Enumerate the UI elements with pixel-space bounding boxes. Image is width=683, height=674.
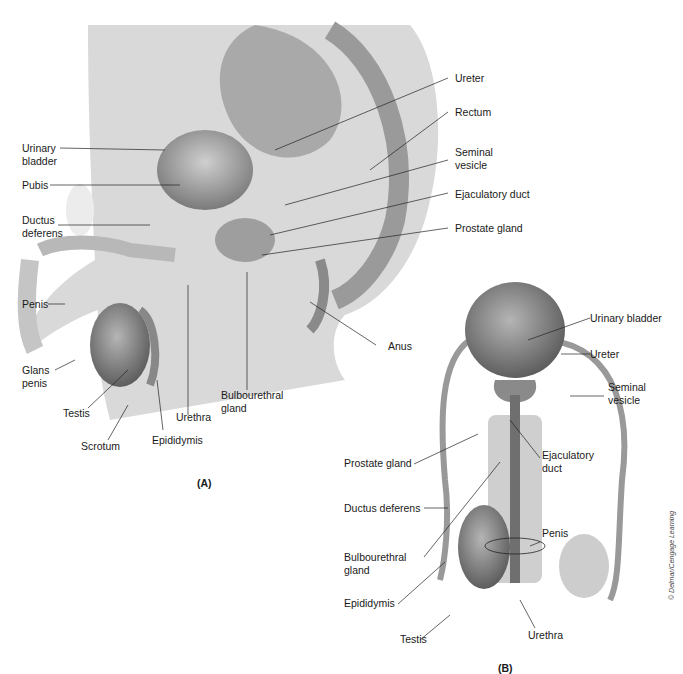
label-a-seminal-vesicle: Seminal vesicle	[455, 146, 493, 171]
label-a-prostate-gland: Prostate gland	[455, 222, 523, 235]
label-a-ejaculatory-duct: Ejaculatory duct	[455, 188, 530, 201]
label-a-ureter: Ureter	[455, 72, 484, 85]
label-a-testis: Testis	[63, 407, 90, 420]
credit-line: © Delmar/Cengage Learning	[668, 511, 675, 600]
label-a-epididymis: Epididymis	[152, 434, 203, 447]
panel-a-id: (A)	[197, 477, 212, 489]
label-a-urinary-bladder: Urinary bladder	[22, 142, 57, 167]
label-b-urinary-bladder: Urinary bladder	[590, 312, 662, 325]
label-b-seminal-vesicle: Seminal vesicle	[608, 381, 646, 406]
label-b-urethra: Urethra	[528, 629, 563, 642]
label-a-rectum: Rectum	[455, 106, 491, 119]
panel-b-illustration	[440, 282, 624, 600]
label-a-scrotum: Scrotum	[81, 440, 120, 453]
label-b-ureter: Ureter	[590, 348, 619, 361]
panel-a-illustration	[27, 25, 438, 420]
label-a-pubis: Pubis	[22, 179, 48, 192]
label-b-ductus-deferens: Ductus deferens	[344, 502, 420, 515]
label-a-ductus-deferens: Ductus deferens	[22, 214, 63, 239]
label-b-penis: Penis	[542, 527, 568, 540]
label-b-testis: Testis	[400, 633, 427, 646]
label-b-bulbourethral-gland: Bulbourethral gland	[344, 551, 406, 576]
label-b-ejaculatory-duct: Ejaculatory duct	[542, 449, 594, 474]
label-a-anus: Anus	[388, 340, 412, 353]
label-b-prostate-gland: Prostate gland	[344, 457, 412, 470]
label-a-glans-penis: Glans penis	[22, 364, 49, 389]
label-a-bulbourethral-gland: Bulbourethral gland	[221, 389, 283, 414]
label-a-penis: Penis	[22, 298, 48, 311]
label-a-urethra: Urethra	[176, 411, 211, 424]
panel-b-id: (B)	[498, 662, 513, 674]
label-b-epididymis: Epididymis	[344, 597, 395, 610]
